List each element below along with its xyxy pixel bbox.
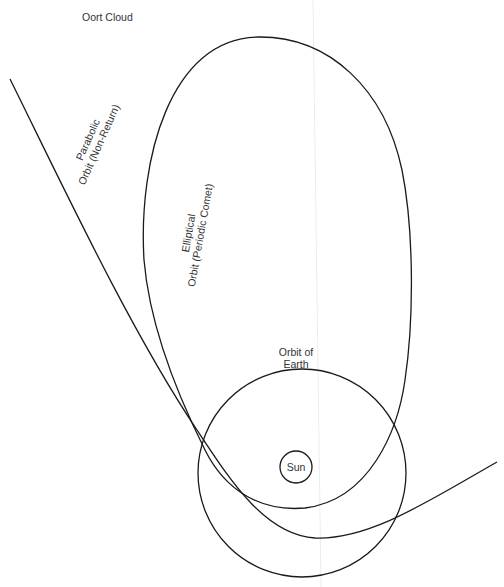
earth-orbit-label-line1: Orbit of	[266, 346, 326, 358]
fold-line	[313, 0, 321, 587]
earth-orbit-label: Orbit of Earth	[266, 346, 326, 370]
sun-label: Sun	[280, 461, 312, 473]
oort-cloud-label: Oort Cloud	[82, 11, 133, 23]
earth-orbit-label-line2: Earth	[266, 358, 326, 370]
orbit-diagram	[0, 0, 504, 587]
